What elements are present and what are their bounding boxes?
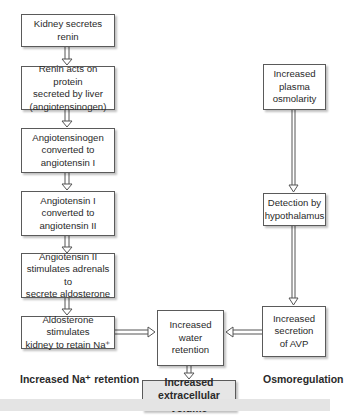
footer-bar (0, 399, 330, 411)
arrow-down-5 (62, 298, 72, 315)
box-text: Increased water retention (169, 319, 211, 357)
box-text: Angiotensinogen converted to angiotensin… (32, 132, 103, 170)
arrow-left-avp (226, 327, 262, 337)
label-increased-na-retention: Increased Na⁺ retention (20, 373, 139, 385)
box-kidney-secretes-renin: Kidney secretes renin (21, 14, 115, 47)
box-text: Increased plasma osmolarity (273, 68, 317, 106)
box-text: Detection by hypothalamus (265, 197, 325, 222)
box-increased-secretion-avp: Increased secretion of AVP (262, 306, 326, 357)
box-detection-by-hypothalamus: Detection by hypothalamus (263, 193, 326, 226)
box-increased-water-retention: Increased water retention (157, 310, 224, 366)
box-angiotensin-ii-stimulates: Angiotensin II stimulates adrenals to se… (21, 253, 115, 298)
box-text: Angiotensin I converted to angiotensin I… (39, 195, 96, 233)
box-text: Aldosterone stimulates kidney to retain … (24, 314, 112, 352)
box-angiotensinogen-converted: Angiotensinogen converted to angiotensin… (21, 128, 115, 173)
box-text: Increased secretion of AVP (273, 313, 315, 351)
box-text: Renin acts on protein secreted by liver … (24, 63, 112, 113)
box-text: Angiotensin II stimulates adrenals to se… (24, 251, 112, 301)
box-renin-acts: Renin acts on protein secreted by liver … (21, 66, 115, 110)
arrow-right-aldosterone (115, 327, 155, 337)
label-osmoregulation: Osmoregulation (263, 373, 344, 385)
arrow-down-hypothalamus (289, 226, 298, 305)
arrow-down-3 (62, 173, 72, 190)
arrow-down-osmolarity (289, 110, 298, 192)
box-increased-plasma-osmolarity: Increased plasma osmolarity (263, 64, 326, 110)
box-aldosterone-stimulates: Aldosterone stimulates kidney to retain … (21, 316, 115, 349)
box-angiotensin-i-converted: Angiotensin I converted to angiotensin I… (21, 191, 115, 236)
box-text: Kidney secretes renin (34, 18, 102, 43)
